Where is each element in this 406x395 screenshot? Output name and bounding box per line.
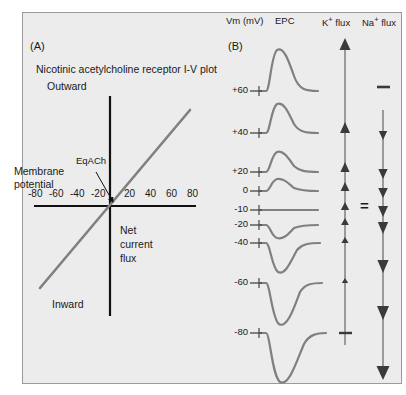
panel-a-inward-label: Inward (52, 299, 84, 311)
k-arrow-plus40 (340, 122, 350, 133)
na-flux-ion-label: Na (362, 17, 374, 28)
na-arrow-plus20 (378, 169, 387, 179)
na-arrow-minus10 (378, 206, 388, 217)
panel-a-outward-label: Outward (47, 81, 87, 93)
x-tick-label-40: 40 (145, 188, 156, 199)
panel-a-axes (34, 96, 196, 316)
k-arrow-plus20 (340, 162, 349, 172)
vm-label-plus40: +40 (222, 127, 248, 138)
k-arrow-minus20 (341, 218, 349, 225)
column-header-vm: Vm (mV) (226, 16, 263, 27)
k-arrow-minus60 (342, 278, 348, 283)
panel-a-title: Nicotinic acetylcholine receptor I-V plo… (36, 64, 217, 76)
vm-label-minus10: -10 (222, 204, 248, 215)
panel-b-vm-leaders (250, 91, 262, 333)
epc-trace-minus80 (261, 333, 326, 383)
epc-trace-plus60 (261, 49, 318, 91)
na-arrow-0 (378, 188, 388, 198)
panel-b-letter: (B) (228, 40, 243, 52)
k-flux-column (339, 38, 352, 345)
na-arrow-minus60 (377, 306, 389, 320)
epc-trace-minus60 (261, 283, 322, 325)
flux-balance-equals-sign: = (360, 198, 369, 215)
k-flux-word-label: flux (333, 17, 350, 28)
na-arrow-minus80 (377, 366, 390, 380)
column-header-epc: EPC (275, 16, 295, 27)
vm-label-minus40: -40 (222, 237, 248, 248)
k-arrow-0 (341, 182, 350, 191)
vm-label-plus60: +60 (222, 85, 248, 96)
x-tick-label-20: 20 (124, 188, 135, 199)
column-header-k-flux: K+ flux (322, 16, 350, 29)
panel-b-epc-traces (261, 49, 326, 382)
k-arrow-plus60 (340, 38, 351, 50)
epc-trace-0 (261, 179, 318, 191)
panel-a-y-axis-title-line1: Net (120, 225, 136, 237)
vm-label-minus80: -80 (222, 327, 248, 338)
vm-label-minus60: -60 (222, 277, 248, 288)
x-tick-label-80: 80 (187, 188, 198, 199)
na-arrow-minus20 (378, 222, 388, 234)
na-flux-word-label: flux (379, 17, 396, 28)
epc-trace-minus40 (261, 243, 320, 273)
x-tick-label-neg40: -40 (70, 188, 84, 199)
x-tick-label-neg80: -80 (28, 188, 42, 199)
epc-trace-minus20 (261, 225, 318, 238)
na-arrow-minus40 (377, 260, 388, 273)
panel-a-letter: (A) (30, 40, 45, 52)
k-arrow-minus10 (341, 202, 349, 210)
x-tick-label-neg60: -60 (49, 188, 63, 199)
vm-label-0: 0 (222, 185, 248, 196)
x-tick-label-60: 60 (166, 188, 177, 199)
figure-container: (A) Nicotinic acetylcholine receptor I-V… (0, 0, 406, 395)
panel-a-y-axis-title-line3: flux (120, 253, 136, 265)
na-flux-column (377, 87, 391, 380)
k-arrow-minus40 (341, 237, 348, 243)
column-header-na-flux: Na+ flux (362, 16, 396, 29)
x-tick-label-neg20: -20 (91, 188, 105, 199)
epc-trace-plus20 (261, 152, 318, 172)
eqach-label: EqACh (76, 156, 106, 167)
na-arrow-plus40 (379, 131, 387, 140)
vm-label-plus20: +20 (222, 166, 248, 177)
vm-label-minus20: -20 (222, 219, 248, 230)
panel-a-y-axis-title-line2: current (120, 239, 153, 251)
epc-trace-plus40 (261, 104, 318, 133)
panel-a-x-axis-title-line1: Membrane (14, 166, 64, 178)
